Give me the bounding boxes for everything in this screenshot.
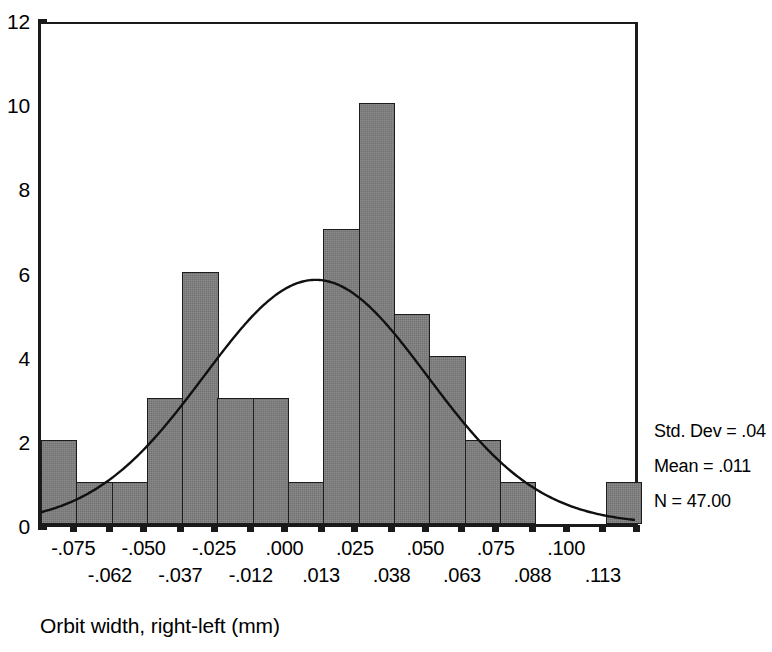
- histogram-bar: [76, 482, 112, 524]
- std-dev-annotation: Std. Dev = .04: [654, 422, 772, 440]
- histogram-bar: [465, 440, 501, 524]
- x-axis-title: Orbit width, right-left (mm): [40, 615, 280, 636]
- x-axis-tick-mark: [106, 525, 113, 532]
- y-axis-tick-label: 12: [0, 11, 30, 32]
- histogram-bar: [182, 272, 218, 525]
- x-axis-tick-mark: [177, 525, 184, 532]
- histogram-bar: [147, 398, 183, 524]
- x-axis-tick-label: .113: [558, 565, 648, 585]
- histogram-bar: [323, 229, 359, 524]
- histogram-bar: [253, 398, 289, 524]
- x-axis-tick-mark: [281, 525, 288, 532]
- x-axis-tick-mark: [458, 525, 465, 532]
- histogram-bar: [112, 482, 148, 524]
- x-axis-tick-mark: [422, 525, 429, 532]
- statistics-annotations: Std. Dev = .04 Mean = .011 N = 47.00: [654, 422, 772, 527]
- y-axis-tick-label: 8: [0, 179, 30, 200]
- histogram-bar: [394, 314, 430, 524]
- x-axis-tick-mark: [247, 525, 254, 532]
- y-axis-tick-label: 0: [0, 516, 30, 537]
- x-axis-tick-mark: [70, 525, 77, 532]
- x-axis-tick-label: .100: [521, 538, 611, 558]
- y-axis-tick-label: 10: [0, 95, 30, 116]
- histogram-bar: [606, 482, 642, 524]
- histogram-bar: [217, 398, 253, 524]
- y-axis-tick-label: 4: [0, 348, 30, 369]
- x-axis-tick-mark: [140, 525, 147, 532]
- x-axis-tick-mark: [318, 525, 325, 532]
- x-axis-tick-mark: [211, 525, 218, 532]
- x-axis-tick-mark: [388, 525, 395, 532]
- histogram-bars: [41, 24, 635, 524]
- histogram-figure: 024681012 -.075-.050-.025.000.025.050.07…: [0, 0, 772, 652]
- x-axis-tick-mark: [492, 525, 499, 532]
- histogram-bar: [359, 103, 395, 524]
- histogram-bar: [41, 440, 77, 524]
- histogram-bar: [500, 482, 536, 524]
- x-axis-tick-mark: [563, 525, 570, 532]
- x-axis-tick-mark: [351, 525, 358, 532]
- histogram-bar: [429, 356, 465, 524]
- y-axis-tick-label: 2: [0, 432, 30, 453]
- x-axis-tick-mark: [633, 525, 640, 532]
- mean-annotation: Mean = .011: [654, 457, 772, 475]
- n-annotation: N = 47.00: [654, 492, 772, 510]
- x-axis-tick-mark: [529, 525, 536, 532]
- histogram-bar: [288, 482, 324, 524]
- x-axis-tick-mark: [599, 525, 606, 532]
- plot-area: [38, 22, 638, 527]
- y-axis-tick-label: 6: [0, 264, 30, 285]
